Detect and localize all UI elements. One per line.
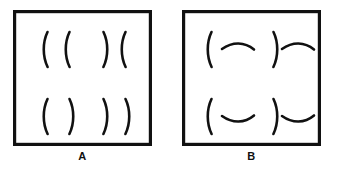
panel-b bbox=[182, 10, 321, 146]
figure-root: A bbox=[0, 0, 340, 174]
panel-a-label: A bbox=[13, 150, 152, 162]
panel-a-border bbox=[13, 10, 152, 146]
panel-a bbox=[13, 10, 152, 146]
panel-b-border bbox=[182, 10, 321, 146]
panel-b-label: B bbox=[182, 150, 321, 162]
